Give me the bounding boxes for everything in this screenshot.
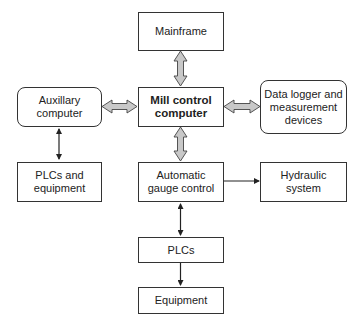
node-label: Mill control computer: [150, 94, 211, 120]
node-label: PLCs and equipment: [34, 169, 85, 195]
block-arrow-aux-mill: [102, 100, 137, 113]
node-label: Automatic gauge control: [148, 169, 215, 195]
block-arrow-mill-logger: [224, 100, 260, 113]
node-equipment: Equipment: [138, 287, 224, 314]
node-label: Equipment: [155, 294, 208, 307]
node-data-logger: Data logger and measurement devices: [260, 80, 347, 134]
node-label: Mainframe: [155, 25, 207, 38]
node-label: Data logger and measurement devices: [264, 88, 342, 127]
node-auxillary-computer: Auxillary computer: [17, 87, 102, 127]
block-arrow-mainframe-mill: [174, 51, 187, 86]
node-automatic-gauge-control: Automatic gauge control: [138, 162, 224, 202]
node-label: Hydraulic system: [281, 169, 327, 195]
block-arrow-mill-agc: [174, 127, 187, 161]
node-label: PLCs: [168, 244, 195, 257]
node-mainframe: Mainframe: [138, 12, 224, 51]
node-plcs-and-equipment: PLCs and equipment: [17, 162, 102, 202]
node-label: Auxillary computer: [37, 94, 83, 120]
node-mill-control-computer: Mill control computer: [138, 87, 224, 127]
node-hydraulic-system: Hydraulic system: [260, 162, 347, 202]
node-plcs: PLCs: [138, 237, 224, 263]
